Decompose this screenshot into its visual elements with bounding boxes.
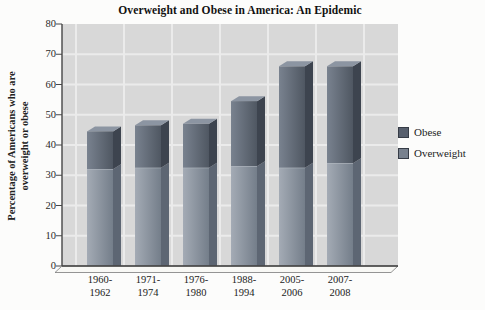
overweight-swatch-icon: [398, 148, 409, 159]
bar-group-2007-2008: [327, 61, 361, 266]
bar-segment-obese: [231, 101, 257, 166]
x-tick-1976-1980: 1976-1980: [172, 273, 220, 299]
bar-group-1976-1980: [183, 119, 217, 266]
bar-segment-overweight: [135, 168, 161, 266]
bar-segment-overweight: [231, 166, 257, 266]
bar-group-2005-2006: [279, 61, 313, 266]
bar-group-1960-1962: [87, 126, 121, 266]
y-tick-50: 50: [26, 108, 56, 122]
y-tick-40: 40: [26, 138, 56, 152]
bar-group-1988-1994: [231, 96, 265, 266]
bar-segment-obese: [327, 66, 353, 163]
x-tick-1971-1974: 1971-1974: [124, 273, 172, 299]
bar-group-1971-1974: [135, 120, 169, 266]
obese-swatch-icon: [398, 127, 409, 138]
x-tick-1960-1962: 1960-1962: [76, 273, 124, 299]
y-tick-20: 20: [26, 199, 56, 213]
y-tick-30: 30: [26, 168, 56, 182]
bar-segment-overweight: [279, 168, 305, 266]
y-tick-0: 0: [26, 259, 56, 273]
floor-strip: [55, 266, 398, 273]
bar-segment-obese: [87, 131, 113, 169]
y-tick-60: 60: [26, 78, 56, 92]
legend-item-overweight: Overweight: [398, 147, 466, 159]
y-tick-10: 10: [26, 229, 56, 243]
bar-segment-obese: [135, 125, 161, 167]
legend-label-overweight: Overweight: [414, 147, 466, 159]
x-tick-2007-2008: 2007-2008: [316, 273, 364, 299]
y-tick-70: 70: [26, 47, 56, 61]
x-tick-2005-2006: 2005-2006: [268, 273, 316, 299]
bar-segment-obese: [183, 124, 209, 168]
bar-segment-obese: [279, 66, 305, 167]
x-tick-1988-1994: 1988-1994: [220, 273, 268, 299]
bar-segment-overweight: [327, 163, 353, 266]
legend: Obese Overweight: [398, 126, 466, 168]
bar-segment-overweight: [183, 168, 209, 266]
bar-segment-overweight: [87, 169, 113, 266]
legend-item-obese: Obese: [398, 126, 466, 138]
y-tick-80: 80: [26, 17, 56, 31]
legend-label-obese: Obese: [414, 126, 442, 138]
chart-figure: Overweight and Obese in America: An Epid…: [0, 0, 485, 310]
